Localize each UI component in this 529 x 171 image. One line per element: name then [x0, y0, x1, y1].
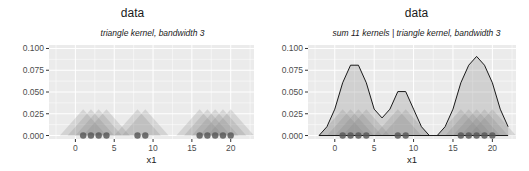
x-tick-label: 10 — [148, 143, 158, 153]
x-axis-label: x1 — [407, 154, 417, 165]
y-tick-label: 0.050 — [23, 87, 45, 97]
data-point — [466, 132, 472, 138]
x-tick-label: 20 — [226, 143, 236, 153]
y-tick-label: 0.100 — [282, 43, 304, 53]
y-tick-label: 0.000 — [23, 131, 45, 141]
data-point — [458, 132, 464, 138]
data-point — [196, 132, 202, 138]
data-point — [95, 132, 101, 138]
y-tick-label: 0.000 — [282, 131, 304, 141]
data-point — [212, 132, 218, 138]
y-tick-label: 0.050 — [282, 87, 304, 97]
x-tick-label: 15 — [187, 143, 197, 153]
data-point — [347, 132, 353, 138]
y-tick-label: 0.025 — [23, 109, 45, 119]
data-point — [481, 132, 487, 138]
data-point — [134, 132, 140, 138]
data-point — [402, 132, 408, 138]
x-tick-label: 5 — [372, 143, 377, 153]
left-chart-plot: 051015200.0000.0250.0500.0750.100x1 — [0, 0, 265, 171]
data-point — [489, 132, 495, 138]
x-tick-label: 15 — [448, 143, 458, 153]
data-point — [220, 132, 226, 138]
left-chart-panel: data triangle kernel, bandwidth 3 051015… — [0, 0, 265, 171]
right-chart-panel: data sum 11 kernels | triangle kernel, b… — [264, 0, 529, 171]
data-point — [103, 132, 109, 138]
data-point — [204, 132, 210, 138]
x-axis-label: x1 — [146, 154, 156, 165]
right-chart-plot: 051015200.0000.0250.0500.0750.100x1 — [264, 0, 529, 171]
y-tick-label: 0.100 — [23, 43, 45, 53]
data-point — [339, 132, 345, 138]
y-tick-label: 0.075 — [23, 65, 45, 75]
data-point — [355, 132, 361, 138]
data-point — [142, 132, 148, 138]
data-point — [395, 132, 401, 138]
x-tick-label: 0 — [73, 143, 78, 153]
data-point — [473, 132, 479, 138]
y-tick-label: 0.025 — [282, 109, 304, 119]
x-tick-label: 0 — [332, 143, 337, 153]
x-tick-label: 10 — [409, 143, 419, 153]
data-point — [80, 132, 86, 138]
data-point — [88, 132, 94, 138]
x-tick-label: 5 — [112, 143, 117, 153]
data-point — [228, 132, 234, 138]
data-point — [363, 132, 369, 138]
x-tick-label: 20 — [488, 143, 498, 153]
y-tick-label: 0.075 — [282, 65, 304, 75]
